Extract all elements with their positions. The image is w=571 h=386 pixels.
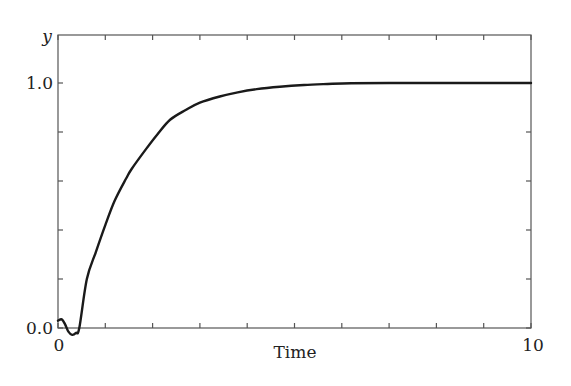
response-curve [58, 83, 531, 335]
y-tick-label-0.0: 0.0 [26, 318, 53, 338]
axis-ticks [58, 35, 531, 328]
x-axis-label: Time [274, 342, 317, 362]
y-tick-label-1.0: 1.0 [26, 73, 53, 93]
line-chart: 1.0 0.0 0 10 Time y [0, 0, 571, 386]
plot-frame [58, 35, 531, 328]
y-axis-label: y [41, 26, 52, 46]
x-tick-label-0: 0 [54, 335, 65, 355]
x-tick-label-10: 10 [522, 335, 544, 355]
